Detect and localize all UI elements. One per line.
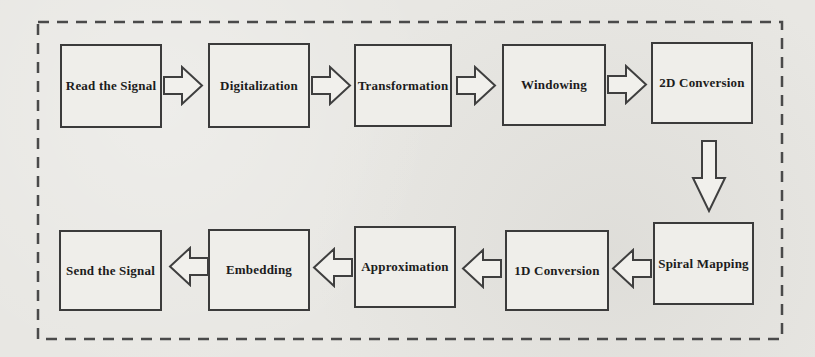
arrow-left-icon xyxy=(312,247,353,288)
arrow-left-icon xyxy=(461,248,502,289)
flow-diagram: Read the Signal Digitalization Transform… xyxy=(0,0,815,357)
step-box-spiral-mapping: Spiral Mapping xyxy=(653,222,754,305)
step-label: Digitalization xyxy=(220,78,298,94)
step-box-read-the-signal: Read the Signal xyxy=(60,44,162,128)
step-box-digitalization: Digitalization xyxy=(208,43,310,128)
arrow-right-icon xyxy=(456,65,497,106)
step-label: Send the Signal xyxy=(66,263,155,279)
step-label: 1D Conversion xyxy=(514,263,599,279)
step-label: Spiral Mapping xyxy=(658,256,749,272)
step-label: Windowing xyxy=(521,77,587,93)
step-box-transformation: Transformation xyxy=(354,44,452,127)
step-label: Embedding xyxy=(226,262,292,278)
step-label: 2D Conversion xyxy=(659,75,744,91)
step-box-windowing: Windowing xyxy=(502,44,606,126)
step-box-approximation: Approximation xyxy=(354,226,456,308)
step-box-2d-conversion: 2D Conversion xyxy=(651,42,753,124)
step-box-send-the-signal: Send the Signal xyxy=(59,230,162,311)
arrow-right-icon xyxy=(311,65,352,106)
step-box-1d-conversion: 1D Conversion xyxy=(505,230,609,311)
step-label: Approximation xyxy=(361,259,449,275)
arrow-down-icon xyxy=(691,140,727,213)
step-label: Read the Signal xyxy=(66,78,156,94)
step-box-embedding: Embedding xyxy=(208,229,310,311)
arrow-left-icon xyxy=(611,248,652,289)
arrow-right-icon xyxy=(163,65,204,106)
arrow-left-icon xyxy=(168,246,209,287)
arrow-right-icon xyxy=(607,64,648,105)
step-label: Transformation xyxy=(358,78,449,94)
